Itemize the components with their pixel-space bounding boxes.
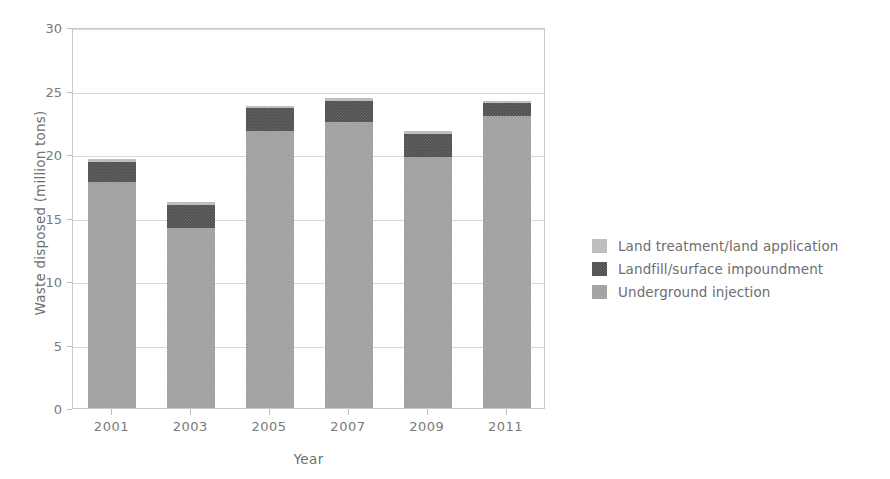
x-tick-mark-2007 bbox=[348, 409, 349, 415]
x-axis-title: Year bbox=[72, 451, 545, 467]
bar-segment-2003-underground-injection[interactable] bbox=[167, 228, 215, 408]
bar-2001[interactable] bbox=[88, 27, 136, 408]
bar-2003[interactable] bbox=[167, 27, 215, 408]
gridline-30 bbox=[73, 29, 544, 30]
x-tick-label-2007: 2007 bbox=[308, 419, 388, 434]
bar-segment-2003-land-treatment-land-application[interactable] bbox=[167, 202, 215, 205]
chart-legend: Land treatment/land applicationLandfill/… bbox=[592, 234, 882, 303]
bar-2007[interactable] bbox=[325, 27, 373, 408]
y-tick-label-10: 10 bbox=[2, 275, 62, 290]
stacked-bar-chart: Waste disposed (million tons) 0510152025… bbox=[0, 0, 890, 479]
bar-segment-2005-underground-injection[interactable] bbox=[246, 131, 294, 408]
bar-segment-2003-landfill-surface-impoundment[interactable] bbox=[167, 205, 215, 228]
bar-segment-2011-underground-injection[interactable] bbox=[483, 116, 531, 408]
x-tick-mark-2005 bbox=[269, 409, 270, 415]
gridline-20 bbox=[73, 156, 544, 157]
bar-segment-2007-land-treatment-land-application[interactable] bbox=[325, 98, 373, 101]
y-tick-label-20: 20 bbox=[2, 148, 62, 163]
legend-item-1[interactable]: Landfill/surface impoundment bbox=[592, 257, 882, 280]
y-tick-label-30: 30 bbox=[2, 21, 62, 36]
x-tick-label-2001: 2001 bbox=[71, 419, 151, 434]
gridline-10 bbox=[73, 283, 544, 284]
legend-item-0[interactable]: Land treatment/land application bbox=[592, 234, 882, 257]
legend-swatch-land-treatment bbox=[592, 239, 607, 253]
plot-area bbox=[72, 28, 545, 409]
legend-swatch-landfill bbox=[592, 262, 607, 276]
gridline-5 bbox=[73, 347, 544, 348]
bar-segment-2005-landfill-surface-impoundment[interactable] bbox=[246, 108, 294, 131]
bar-segment-2005-land-treatment-land-application[interactable] bbox=[246, 106, 294, 109]
x-tick-mark-2009 bbox=[427, 409, 428, 415]
legend-label-2: Underground injection bbox=[618, 284, 770, 300]
x-tick-mark-2003 bbox=[190, 409, 191, 415]
x-tick-mark-2011 bbox=[506, 409, 507, 415]
x-tick-label-2011: 2011 bbox=[466, 419, 546, 434]
bar-2011[interactable] bbox=[483, 27, 531, 408]
bar-segment-2007-underground-injection[interactable] bbox=[325, 122, 373, 408]
bar-segment-2011-land-treatment-land-application[interactable] bbox=[483, 101, 531, 104]
legend-item-2[interactable]: Underground injection bbox=[592, 280, 882, 303]
x-tick-mark-2001 bbox=[111, 409, 112, 415]
legend-label-1: Landfill/surface impoundment bbox=[618, 261, 823, 277]
y-tick-label-15: 15 bbox=[2, 211, 62, 226]
gridline-25 bbox=[73, 93, 544, 94]
bar-segment-2009-underground-injection[interactable] bbox=[404, 157, 452, 408]
bar-segment-2001-underground-injection[interactable] bbox=[88, 182, 136, 408]
y-tick-label-5: 5 bbox=[2, 338, 62, 353]
bar-segment-2009-land-treatment-land-application[interactable] bbox=[404, 131, 452, 134]
x-tick-label-2009: 2009 bbox=[387, 419, 467, 434]
bar-segment-2001-landfill-surface-impoundment[interactable] bbox=[88, 162, 136, 182]
legend-swatch-underground-injection bbox=[592, 285, 607, 299]
y-tick-label-0: 0 bbox=[2, 402, 62, 417]
bar-segment-2009-landfill-surface-impoundment[interactable] bbox=[404, 134, 452, 157]
bar-2009[interactable] bbox=[404, 27, 452, 408]
bar-segment-2011-landfill-surface-impoundment[interactable] bbox=[483, 103, 531, 116]
bar-segment-2007-landfill-surface-impoundment[interactable] bbox=[325, 101, 373, 123]
x-tick-label-2005: 2005 bbox=[229, 419, 309, 434]
bar-2005[interactable] bbox=[246, 27, 294, 408]
x-tick-label-2003: 2003 bbox=[150, 419, 230, 434]
y-tick-mark-0 bbox=[67, 409, 72, 410]
bar-segment-2001-land-treatment-land-application[interactable] bbox=[88, 159, 136, 162]
legend-label-0: Land treatment/land application bbox=[618, 238, 839, 254]
y-tick-label-25: 25 bbox=[2, 84, 62, 99]
gridline-15 bbox=[73, 220, 544, 221]
